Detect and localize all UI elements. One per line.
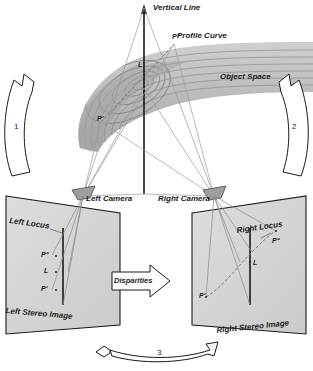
- disparities-label: Disparities: [114, 276, 152, 285]
- right-camera-label: Right Camera: [158, 194, 210, 203]
- object-point-p-prime-label: Pʹ: [97, 115, 103, 122]
- right-image-point-p-double-prime: Pʺ: [272, 237, 280, 244]
- flow-arrow-3-number: 3: [157, 348, 161, 357]
- object-space-label: Object Space: [220, 72, 271, 81]
- object-point-l-label: L: [138, 61, 142, 68]
- left-image-point-p-double-prime: Pʺ: [41, 251, 49, 258]
- flow-arrow-1-number: 1: [14, 122, 18, 131]
- flow-arrow-2-number: 2: [292, 122, 296, 131]
- right-image-point-l: L: [253, 259, 257, 266]
- left-image-point-p-prime: Pʹ: [41, 285, 47, 292]
- left-image-point-l: L: [44, 267, 48, 274]
- left-camera-label: Left Camera: [86, 194, 132, 203]
- object-space-surface: [75, 42, 313, 152]
- vertical-line-label: Vertical Line: [153, 3, 200, 12]
- right-image-plane: [192, 196, 306, 334]
- diagram-canvas: Vertical Line Pʺ Profile Curve L Pʹ Obje…: [0, 0, 313, 371]
- right-image-point-p-prime: Pʹ: [199, 292, 205, 299]
- flow-arrow-1: [5, 74, 34, 176]
- profile-curve-label: Profile Curve: [177, 31, 227, 40]
